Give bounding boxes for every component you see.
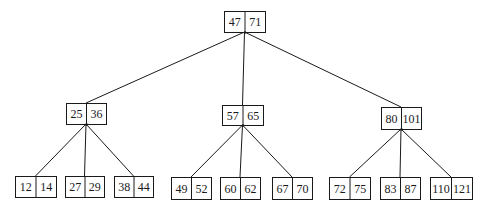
tree-node-n2: 5765 — [223, 106, 264, 127]
child-pointer-dot — [400, 128, 403, 131]
node-key: 71 — [249, 15, 261, 29]
node-key: 38 — [118, 180, 130, 194]
tree-node-l2: 2729 — [66, 177, 105, 198]
tree-edge-n3-l9 — [401, 129, 451, 177]
node-key: 65 — [247, 109, 259, 123]
node-key: 80 — [386, 112, 398, 126]
tree-edge-n3-l7 — [350, 129, 402, 177]
node-key: 67 — [277, 182, 289, 196]
node-key: 47 — [229, 15, 241, 29]
node-key: 25 — [71, 107, 83, 121]
child-pointer-dot — [242, 124, 245, 127]
tree-node-l8: 8387 — [381, 178, 421, 200]
node-key: 72 — [334, 182, 346, 196]
node-key: 101 — [403, 112, 421, 126]
tree-edge-n1-l2 — [85, 124, 87, 176]
tree-edge-root-n1 — [86, 32, 245, 103]
tree-node-l7: 7275 — [330, 178, 371, 200]
tree-node-l6: 6770 — [273, 178, 313, 200]
b-tree-diagram: 4771253657658010112142729384449526062677… — [0, 0, 487, 205]
node-key: 36 — [91, 107, 103, 121]
node-key: 27 — [69, 180, 81, 194]
node-key: 29 — [89, 180, 101, 194]
node-key: 14 — [40, 180, 52, 194]
tree-node-n3: 80101 — [382, 108, 422, 131]
node-key: 121 — [453, 182, 471, 196]
node-key: 49 — [176, 182, 188, 196]
tree-edge-n3-l8 — [400, 129, 401, 177]
tree-node-l4: 4952 — [172, 178, 212, 200]
node-key: 83 — [385, 182, 397, 196]
node-key: 60 — [225, 182, 237, 196]
tree-node-root: 4771 — [225, 12, 266, 34]
node-key: 12 — [20, 180, 32, 194]
tree-edge-n1-l3 — [86, 124, 134, 176]
tree-node-l1: 1214 — [16, 177, 57, 198]
child-pointer-dot — [244, 31, 247, 34]
tree-edge-n2-l6 — [243, 125, 293, 177]
child-pointer-dot — [85, 123, 88, 126]
tree-node-l9: 110121 — [431, 178, 473, 200]
tree-node-l3: 3844 — [115, 177, 154, 198]
tree-node-l5: 6062 — [221, 178, 261, 200]
tree-node-n1: 2536 — [67, 104, 107, 126]
node-key: 110 — [432, 182, 450, 196]
node-key: 70 — [297, 182, 309, 196]
node-key: 44 — [138, 180, 150, 194]
node-key: 62 — [245, 182, 257, 196]
node-key: 75 — [354, 182, 366, 196]
node-key: 57 — [227, 109, 239, 123]
tree-edge-n1-l1 — [36, 124, 87, 176]
node-key: 87 — [405, 182, 417, 196]
tree-edge-root-n2 — [243, 32, 245, 105]
tree-edge-n2-l5 — [240, 125, 243, 177]
tree-edge-root-n3 — [245, 32, 402, 107]
node-key: 52 — [196, 182, 208, 196]
tree-edge-n2-l4 — [191, 125, 243, 177]
